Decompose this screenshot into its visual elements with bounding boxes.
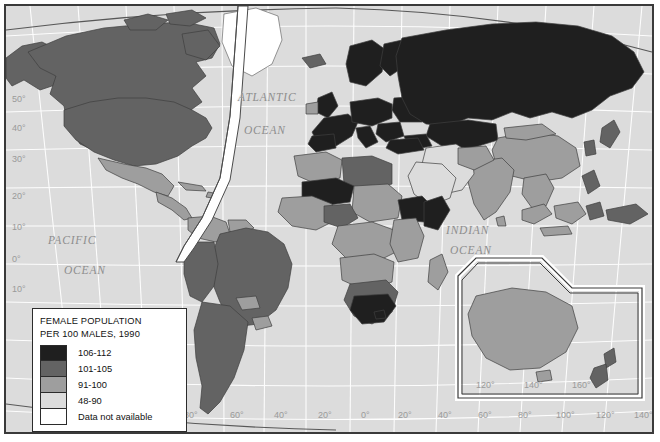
- legend-label-no-data: Data not available: [78, 412, 152, 422]
- legend-title-line1: FEMALE POPULATION: [40, 315, 180, 328]
- legend-row-no-data: Data not available: [40, 409, 180, 425]
- legend-swatch-no-data: [40, 409, 67, 425]
- region-java: [540, 226, 572, 236]
- region-scandinavia: [346, 40, 386, 86]
- lon-label-40e: 40°: [438, 410, 452, 420]
- legend-swatch-91-100: [40, 377, 67, 393]
- lon-label-20e: 20°: [398, 410, 412, 420]
- region-sulawesi: [586, 202, 604, 220]
- legend-label-91-100: 91-100: [78, 380, 107, 390]
- region-australia: [468, 288, 578, 370]
- region-uruguay: [252, 316, 272, 330]
- region-new-zealand-south: [590, 364, 608, 388]
- region-cuba: [178, 182, 206, 191]
- region-indochina: [522, 174, 554, 208]
- lat-label-0: 0°: [12, 254, 21, 264]
- legend-label-48-90: 48-90: [78, 396, 102, 406]
- lat-label-40n: 40°: [12, 123, 26, 133]
- lat-label-20n: 20°: [12, 191, 26, 201]
- region-uk-ireland: [316, 92, 338, 118]
- region-japan: [600, 120, 620, 148]
- lon-label-0: 0°: [361, 410, 370, 420]
- ocean-label-pacific-line2: OCEAN: [64, 264, 106, 276]
- legend-label-106-112: 106-112: [78, 348, 111, 358]
- legend-swatch-48-90: [40, 393, 67, 409]
- region-south-africa: [350, 294, 396, 324]
- region-germany-poland: [350, 98, 392, 126]
- legend-row-48-90: 48-90: [40, 393, 180, 409]
- lon-label-80e: 80°: [518, 410, 532, 420]
- region-borneo: [554, 202, 586, 224]
- legend-swatch-101-105: [40, 361, 67, 377]
- region-lesotho: [374, 310, 386, 319]
- map-frame: PACIFIC OCEAN ATLANTIC OCEAN INDIAN OCEA…: [4, 4, 654, 434]
- region-hispaniola: [206, 192, 220, 199]
- region-new-guinea: [606, 204, 648, 224]
- lon-label-100e: 100°: [556, 410, 575, 420]
- region-italy: [356, 126, 378, 148]
- region-arctic-island-2: [166, 10, 206, 26]
- region-korea: [584, 140, 596, 156]
- region-greenland: [222, 8, 282, 76]
- legend-row-101-105: 101-105: [40, 361, 180, 377]
- lon-label-60w: 60°: [230, 410, 244, 420]
- region-turkey: [386, 138, 424, 154]
- inset-lon-label-120e: 120°: [476, 380, 495, 390]
- region-peru-bolivia: [184, 242, 218, 302]
- region-kazakhstan: [426, 120, 498, 148]
- legend-title: FEMALE POPULATION PER 100 MALES, 1990: [40, 315, 180, 340]
- ocean-label-atlantic-line1: ATLANTIC: [238, 91, 296, 103]
- lon-label-120e: 120°: [596, 410, 615, 420]
- region-chad-sudan: [352, 184, 402, 222]
- legend-row-106-112: 106-112: [40, 345, 180, 361]
- region-madagascar: [428, 254, 448, 290]
- map-legend: FEMALE POPULATION PER 100 MALES, 1990 10…: [32, 308, 187, 432]
- region-east-africa: [390, 218, 424, 262]
- inset-lon-label-160e: 160°: [572, 380, 591, 390]
- region-sumatra: [522, 204, 552, 224]
- region-argentina-chile: [194, 302, 248, 414]
- lon-label-140e: 140°: [634, 410, 653, 420]
- legend-class-list: 106-112 101-105 91-100 48-90: [40, 345, 180, 425]
- region-iceland: [302, 54, 326, 68]
- inset-lon-label-140e: 140°: [524, 380, 543, 390]
- lat-label-50n: 50°: [12, 94, 26, 104]
- ocean-label-atlantic-line2: OCEAN: [244, 124, 286, 136]
- lon-label-20w: 20°: [318, 410, 332, 420]
- lon-label-40w: 40°: [274, 410, 288, 420]
- lat-label-10s: 10°: [12, 284, 26, 294]
- region-ireland: [306, 102, 318, 114]
- legend-row-91-100: 91-100: [40, 377, 180, 393]
- map-plate: PACIFIC OCEAN ATLANTIC OCEAN INDIAN OCEA…: [6, 6, 652, 432]
- ocean-label-pacific-line1: PACIFIC: [48, 234, 96, 246]
- ocean-label-indian-line2: OCEAN: [450, 244, 492, 256]
- ocean-label-indian-line1: INDIAN: [446, 224, 489, 236]
- map-figure: PACIFIC OCEAN ATLANTIC OCEAN INDIAN OCEA…: [0, 0, 660, 442]
- region-spain-portugal: [308, 134, 336, 152]
- legend-swatch-106-112: [40, 345, 67, 361]
- region-central-america: [156, 192, 192, 220]
- region-russia: [396, 22, 644, 126]
- lon-label-60e: 60°: [478, 410, 492, 420]
- lat-label-10n: 10°: [12, 222, 26, 232]
- legend-label-101-105: 101-105: [78, 364, 112, 374]
- legend-title-line2: PER 100 MALES, 1990: [40, 328, 180, 341]
- lat-label-30n: 30°: [12, 154, 26, 164]
- region-philippines: [582, 170, 600, 194]
- region-sri-lanka: [496, 216, 506, 226]
